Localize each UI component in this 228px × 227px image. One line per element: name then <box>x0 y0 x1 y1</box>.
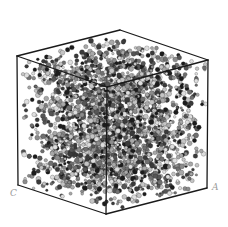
corner-label-c: C <box>10 188 17 198</box>
corner-label-a: A <box>212 182 219 192</box>
atom-cloud <box>21 38 208 209</box>
simulation-box-figure <box>0 0 228 227</box>
